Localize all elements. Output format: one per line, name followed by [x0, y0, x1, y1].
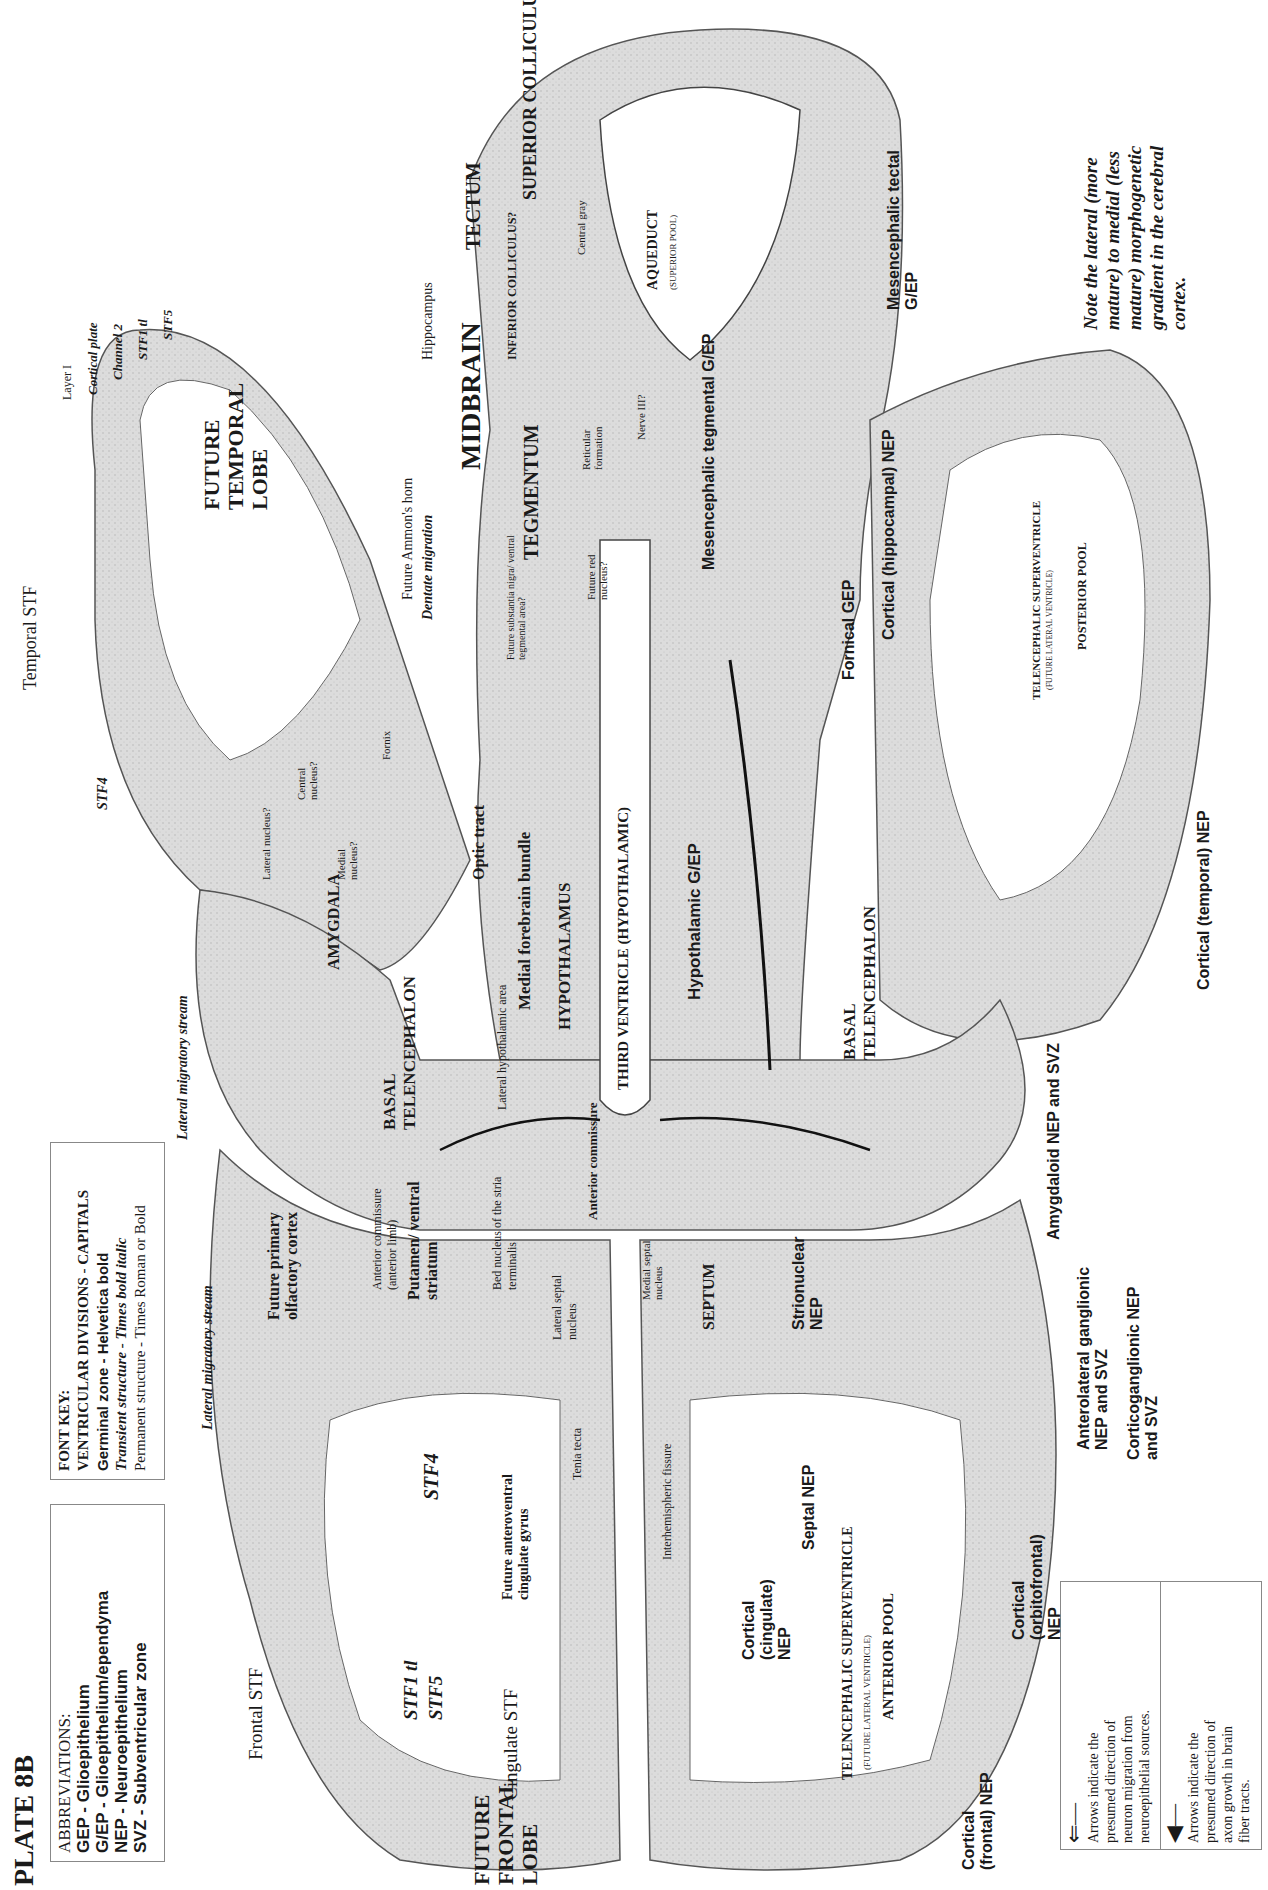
- label-aqueduct-sub: (SUPERIOR POOL): [668, 215, 678, 290]
- abbreviation-item: GEP - Glioepithelium: [74, 1513, 93, 1853]
- label-superior-colliculus: SUPERIOR COLLICULUS: [520, 0, 541, 200]
- font-key-item: VENTRICULAR DIVISIONS - CAPITALS: [74, 1151, 93, 1471]
- plate-title: PLATE 8B: [8, 1755, 40, 1886]
- legend-line: fiber tracts.: [1236, 1588, 1253, 1843]
- label-hippocampus: Hippocampus: [420, 282, 436, 360]
- label-temporal-stf: Temporal STF: [20, 586, 41, 690]
- gradient-note: Note the lateral (more mature) to medial…: [1080, 10, 1190, 330]
- label-stf5-frontal: STF5: [425, 1676, 447, 1720]
- label-cortical-hippocampal: Cortical (hippocampal) NEP: [880, 429, 898, 640]
- label-cortical-plate: Cortical plate: [85, 322, 101, 395]
- label-tectum: TECTUM: [462, 162, 485, 250]
- label-mesencephalic-tectal: Mesencephalic tectal G/EP: [885, 130, 921, 310]
- label-substantia-nigra: Future substantia nigra/ ventral tegment…: [505, 500, 527, 660]
- label-central-gray: Central gray: [575, 200, 587, 255]
- label-stf1-tl-frontal: STF1 tl: [400, 1660, 422, 1720]
- label-bed-nucleus: Bed nucleus of the stria terminalis: [490, 1170, 520, 1290]
- label-hypothalamus: HYPOTHALAMUS: [555, 883, 575, 1030]
- label-fornix: Fornix: [380, 731, 392, 760]
- note-line: Note the lateral (more: [1080, 10, 1102, 330]
- label-septum: SEPTUM: [700, 1263, 718, 1330]
- legend-line: neuron migration from: [1119, 1588, 1136, 1843]
- label-stf1-tl: STF1 tl: [135, 319, 151, 360]
- font-key-box: FONT KEY: VENTRICULAR DIVISIONS - CAPITA…: [50, 1142, 165, 1480]
- label-cortical-temporal: Cortical (temporal) NEP: [1195, 810, 1213, 990]
- label-telencephalic-superventricle-posterior: TELENCEPHALIC SUPERVENTRICLE: [1030, 501, 1042, 700]
- label-inferior-colliculus: INFERIOR COLLICULUS?: [505, 212, 520, 360]
- label-lateral-septal: Lateral septal nucleus: [550, 1250, 580, 1340]
- label-putamen: Putamen/ ventral striatum: [405, 1170, 441, 1300]
- legend-line: neuroepithelial sources.: [1136, 1588, 1153, 1843]
- label-fornical-gep: Fornical GEP: [840, 580, 858, 680]
- label-cortical-cingulate: Cortical (cingulate) NEP: [740, 1550, 794, 1660]
- note-line: mature) morphogenetic: [1124, 10, 1146, 330]
- abbreviation-item: NEP - Neuroepithelium: [112, 1513, 131, 1853]
- label-hypothalamic-gep: Hypothalamic G/EP: [685, 843, 705, 1000]
- label-interhemispheric: Interhemispheric fissure: [660, 1444, 675, 1560]
- label-septal-nep: Septal NEP: [800, 1465, 818, 1550]
- label-stf4: STF4: [95, 777, 111, 810]
- label-aqueduct: AQUEDUCT: [645, 210, 661, 290]
- label-amygdaloid: Amygdaloid NEP and SVZ: [1045, 1043, 1063, 1240]
- legend-migration: ⇐— Arrows indicate the presumed directio…: [1060, 1581, 1162, 1850]
- label-layer1: Layer I: [60, 365, 75, 400]
- label-future-frontal-lobe: FUTURE FRONTAL LOBE: [470, 1755, 542, 1885]
- label-future-temporal-lobe: FUTURE TEMPORAL LOBE: [200, 380, 272, 510]
- font-key-item: Germinal zone - Helvetica bold: [93, 1151, 112, 1471]
- abbreviations-box: ABBREVIATIONS: GEP - Glioepithelium G/EP…: [50, 1504, 165, 1862]
- label-reticular-formation: Reticular formation: [580, 390, 604, 470]
- label-lateral-migratory-stream-2: Lateral migratory stream: [200, 1285, 216, 1430]
- label-medial-nucleus: Medial nucleus?: [335, 820, 359, 880]
- solid-arrow-icon: ◀—: [1161, 1804, 1186, 1843]
- label-medial-forebrain-bundle: Medial forebrain bundle: [515, 832, 535, 1010]
- note-line: cortex.: [1168, 10, 1190, 330]
- double-arrow-icon: ⇐—: [1061, 1803, 1086, 1843]
- label-future-primary-olfactory: Future primary olfactory cortex: [265, 1180, 301, 1320]
- label-strionuclear: Strionuclear NEP: [790, 1210, 826, 1330]
- label-tenia-tecta: Tenia tecta: [570, 1428, 585, 1480]
- label-amygdala: AMYGDALA: [325, 874, 343, 970]
- label-anterior-commissure: Anterior commissure: [585, 1102, 601, 1220]
- label-nerve-iii: Nerve III?: [635, 395, 647, 441]
- label-cortical-frontal: Cortical (frontal) NEP: [960, 1770, 996, 1870]
- font-key-item: Permanent structure - Times Roman or Bol…: [131, 1151, 150, 1471]
- label-future-anteroventral: Future anteroventral cingulate gyrus: [500, 1420, 532, 1600]
- label-corticoganglionic: Corticoganglionic NEP and SVZ: [1125, 1260, 1161, 1460]
- plate-8b: PLATE 8B ABBREVIATIONS: GEP - Glioepithe…: [0, 0, 1268, 1890]
- label-stf4-frontal: STF4: [420, 1453, 443, 1500]
- label-future-lateral-ventricle-anterior: (FUTURE LATERAL VENTRICLE): [862, 1635, 872, 1770]
- label-telencephalic-superventricle-anterior: TELENCEPHALIC SUPERVENTRICLE: [840, 1526, 856, 1780]
- label-anterolateral: Anterolateral ganglionic NEP and SVZ: [1075, 1250, 1111, 1450]
- label-lateral-migratory-stream: Lateral migratory stream: [175, 995, 191, 1140]
- note-line: mature) to medial (less: [1102, 10, 1124, 330]
- label-central-nucleus: Central nucleus?: [295, 740, 319, 800]
- abbreviations-heading: ABBREVIATIONS:: [55, 1513, 74, 1853]
- label-ammons-horn: Future Ammon's horn: [400, 478, 416, 600]
- label-stf5: STF5: [160, 310, 176, 340]
- label-lateral-hypothalamic-area: Lateral hypothalamic area: [495, 985, 510, 1110]
- legend-line: Arrows indicate the: [1085, 1588, 1102, 1843]
- font-key-heading: FONT KEY:: [55, 1151, 74, 1471]
- label-posterior-pool: POSTERIOR POOL: [1075, 542, 1090, 650]
- legend-line: Arrows indicate the: [1185, 1588, 1202, 1843]
- label-basal-telencephalon-2: BASAL TELENCEPHALON: [840, 920, 880, 1060]
- label-future-lateral-ventricle-posterior: (FUTURE LATERAL VENTRICLE): [1045, 570, 1054, 690]
- label-lateral-nucleus: Lateral nucleus?: [260, 808, 272, 880]
- label-frontal-stf: Frontal STF: [245, 1668, 267, 1760]
- abbreviation-item: SVZ - Subventricular zone: [131, 1513, 150, 1853]
- label-medial-septal: Medial septal nucleus: [640, 1220, 664, 1300]
- label-mesencephalic-tegmental: Mesencephalic tegmental G/EP: [700, 330, 718, 570]
- legend-axon: ◀— Arrows indicate the presumed directio…: [1160, 1581, 1262, 1850]
- label-third-ventricle: THIRD VENTRICLE (HYPOTHALAMIC): [615, 807, 632, 1090]
- label-basal-telencephalon: BASAL TELENCEPHALON: [380, 980, 420, 1130]
- label-optic-tract: Optic tract: [470, 805, 488, 880]
- label-cortical-orbitofrontal: Cortical (orbitofrontal) NEP: [1010, 1520, 1064, 1640]
- abbreviation-item: G/EP - Glioepithelium/ependyma: [93, 1513, 112, 1853]
- label-red-nucleus: Future red nucleus?: [585, 530, 609, 600]
- legend-line: presumed direction of: [1102, 1588, 1119, 1843]
- label-midbrain: MIDBRAIN: [455, 322, 487, 470]
- legend-line: axon growth in brain: [1219, 1588, 1236, 1843]
- font-key-item: Transient structure - Times bold italic: [112, 1151, 131, 1471]
- label-anterior-pool: ANTERIOR POOL: [880, 1593, 897, 1720]
- legend-line: presumed direction of: [1202, 1588, 1219, 1843]
